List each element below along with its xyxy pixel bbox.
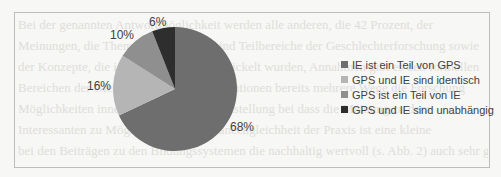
label-16: 16%	[87, 79, 111, 93]
legend-label: GPS ist ein Teil von IE	[352, 89, 461, 101]
legend-swatch	[341, 76, 348, 83]
legend-item: GPS und IE sind identisch	[341, 72, 494, 87]
label-10: 10%	[110, 28, 134, 42]
legend-item: IE ist ein Teil von GPS	[341, 57, 494, 72]
legend-label: GPS und IE sind unabhängig	[352, 104, 494, 116]
legend-label: IE ist ein Teil von GPS	[352, 59, 461, 71]
label-6: 6%	[149, 15, 166, 29]
legend-swatch	[341, 106, 348, 113]
legend-item: GPS und IE sind unabhängig	[341, 102, 494, 117]
legend-swatch	[341, 61, 348, 68]
legend-label: GPS und IE sind identisch	[352, 74, 480, 86]
legend-item: GPS ist ein Teil von IE	[341, 87, 494, 102]
legend-swatch	[341, 91, 348, 98]
legend: IE ist ein Teil von GPS GPS und IE sind …	[341, 57, 494, 117]
label-68: 68%	[230, 120, 254, 134]
